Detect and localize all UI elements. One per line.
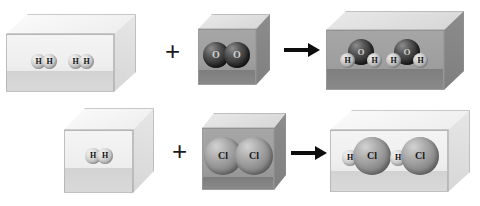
atom-label: Cl — [218, 151, 228, 161]
atom-label: Cl — [367, 151, 377, 161]
box-top-face — [326, 11, 464, 30]
atom-label: O — [233, 50, 241, 60]
reaction-arrow — [291, 146, 327, 160]
atom-label: H — [83, 58, 89, 66]
plus-operator: + — [165, 38, 180, 64]
box-floor-shading — [327, 69, 443, 89]
atom-o: O — [224, 42, 250, 68]
atom-label: O — [357, 48, 364, 57]
atom-label: Cl — [415, 151, 425, 161]
atom-label: O — [403, 48, 410, 57]
arrow-head-icon — [315, 146, 327, 160]
box-front-face — [6, 34, 114, 92]
box-floor-shading — [7, 71, 113, 91]
atom-label: H — [90, 152, 96, 160]
hydrogen-gas-box: H H H H — [6, 14, 158, 94]
water-box: O H H O H H — [326, 11, 474, 95]
atom-label: H — [72, 58, 78, 66]
atom-h: H — [97, 148, 113, 164]
atom-label: H — [390, 57, 396, 65]
atom-cl: Cl — [235, 137, 273, 175]
arrow-shaft — [284, 48, 309, 52]
box-top-face — [6, 14, 136, 34]
oxygen-gas-box: O O — [198, 14, 276, 94]
atom-label: H — [344, 57, 350, 65]
atom-label: H — [417, 57, 423, 65]
atom-cl: Cl — [401, 137, 439, 175]
arrow-shaft — [291, 151, 316, 155]
reaction-arrow — [284, 43, 320, 57]
atom-label: Cl — [249, 151, 259, 161]
reaction-diagram: H H H H + O O — [0, 0, 480, 206]
arrow-head-icon — [308, 43, 320, 57]
hydrogen-gas-cube: H H — [64, 108, 160, 198]
box-floor-shading — [199, 70, 255, 84]
box-floor-shading — [203, 177, 273, 189]
atom-h: H — [386, 53, 401, 68]
atom-label: H — [371, 57, 377, 65]
atom-h: H — [340, 53, 355, 68]
box-floor-shading — [331, 171, 447, 191]
atom-h: H — [42, 54, 57, 69]
box-floor-shading — [65, 168, 132, 192]
atom-label: H — [102, 152, 108, 160]
box-top-face — [202, 113, 286, 128]
atom-h: H — [367, 53, 382, 68]
atom-h: H — [79, 54, 94, 69]
plus-operator: + — [172, 138, 187, 164]
atom-label: H — [46, 58, 52, 66]
chlorine-gas-cube: Cl Cl — [202, 113, 288, 198]
atom-label: H — [35, 58, 41, 66]
atom-h: H — [413, 53, 428, 68]
box-top-face — [330, 110, 470, 130]
hydrogen-chloride-box: H Cl H Cl — [330, 110, 476, 198]
atom-label: O — [212, 50, 220, 60]
atom-cl: Cl — [353, 137, 391, 175]
